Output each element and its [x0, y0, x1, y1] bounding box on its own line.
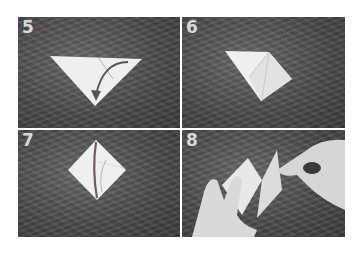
- step-7-panel: 7: [18, 130, 180, 237]
- step-8-panel: 8: [182, 130, 345, 237]
- hands-folding-illustration: [182, 130, 345, 237]
- step-5-panel: 5: [18, 17, 180, 128]
- folded-triangle-illustration: [18, 17, 180, 128]
- folded-diamond-illustration: [18, 130, 180, 237]
- step-6-panel: 6: [182, 17, 345, 128]
- folded-triangle-illustration: [182, 17, 345, 128]
